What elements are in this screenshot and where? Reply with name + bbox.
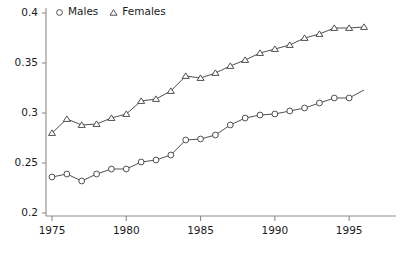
data-point-marker-circle <box>49 174 55 180</box>
data-point-marker-circle <box>287 108 293 114</box>
data-point-marker-circle <box>57 9 63 15</box>
data-series <box>49 24 368 184</box>
data-point-marker-circle <box>138 159 144 165</box>
x-tick-label: 1990 <box>250 224 300 236</box>
y-tick-label: 0.35 <box>0 56 38 68</box>
data-point-marker-circle <box>257 112 263 118</box>
data-point-marker-circle <box>346 95 352 101</box>
data-point-marker-circle <box>94 171 100 177</box>
legend-label: Males <box>68 5 98 17</box>
data-point-marker-triangle <box>227 63 234 69</box>
legend-item-females: Females <box>109 5 165 17</box>
data-point-marker-circle <box>198 136 204 142</box>
data-point-marker-triangle <box>286 42 293 48</box>
y-tick-label: 0.25 <box>0 156 38 168</box>
legend-item-males: Males <box>55 5 98 17</box>
data-point-marker-circle <box>272 111 278 117</box>
data-point-marker-triangle <box>110 9 117 15</box>
data-point-marker-circle <box>183 137 189 143</box>
axes <box>42 8 396 221</box>
x-tick-label: 1980 <box>101 224 151 236</box>
triangle-marker-icon <box>109 7 118 16</box>
data-point-marker-circle <box>79 178 85 184</box>
data-point-marker-triangle <box>93 121 100 127</box>
x-tick-label: 1995 <box>324 224 374 236</box>
plot-area <box>0 0 403 255</box>
data-point-marker-circle <box>242 115 248 121</box>
chart-legend: MalesFemales <box>55 5 166 17</box>
data-point-marker-triangle <box>316 31 323 37</box>
data-point-marker-circle <box>153 157 159 163</box>
data-point-marker-triangle <box>361 24 368 30</box>
data-point-marker-triangle <box>63 116 70 122</box>
data-point-marker-circle <box>227 122 233 128</box>
data-point-marker-circle <box>64 171 70 177</box>
y-tick-label: 0.4 <box>0 6 38 18</box>
y-tick-label: 0.2 <box>0 206 38 218</box>
data-point-marker-circle <box>302 105 308 111</box>
series-females <box>49 24 368 136</box>
series-line <box>52 27 364 133</box>
x-tick-label: 1985 <box>176 224 226 236</box>
data-point-marker-circle <box>213 132 219 138</box>
data-point-marker-triangle <box>153 96 160 102</box>
data-point-marker-circle <box>168 152 174 158</box>
data-point-marker-circle <box>109 166 115 172</box>
data-point-marker-triangle <box>212 70 219 76</box>
series-males <box>49 90 364 184</box>
x-tick-label: 1975 <box>27 224 77 236</box>
data-point-marker-triangle <box>182 73 189 79</box>
data-point-marker-circle <box>317 100 323 106</box>
y-tick-label: 0.3 <box>0 106 38 118</box>
legend-label: Females <box>122 5 165 17</box>
circle-marker-icon <box>55 7 64 16</box>
data-point-marker-circle <box>123 166 129 172</box>
data-point-marker-triangle <box>242 57 249 63</box>
line-chart: 0.20.250.30.350.4 19751980198519901995 M… <box>0 0 403 255</box>
data-point-marker-circle <box>331 95 337 101</box>
